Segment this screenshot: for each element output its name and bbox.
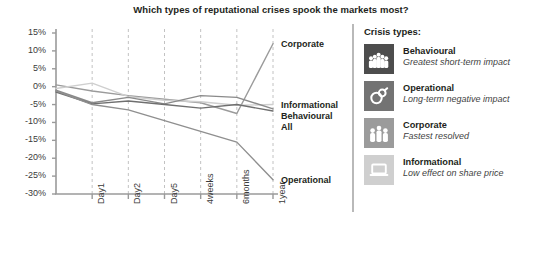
x-axis-tick-label: Day2 (132, 183, 142, 204)
series-label-all: All (281, 122, 293, 132)
x-axis-tick-label: 1year (277, 181, 287, 204)
legend-item-name: Informational (403, 157, 504, 168)
chart-panel: 15%10%5%0%-5%-10%-15%-20%-25%-30% Day1Da… (0, 22, 350, 262)
infographic-root: Which types of reputational crises spook… (0, 0, 542, 262)
legend-divider (352, 24, 354, 212)
x-axis-tick-label: Day1 (96, 183, 106, 204)
legend-item-corporate[interactable]: CorporateFastest resolved (364, 118, 542, 148)
chain-links-icon (364, 81, 394, 111)
legend-item-operational[interactable]: OperationalLong-term negative impact (364, 81, 542, 111)
laptop-icon (364, 155, 394, 185)
legend-item-list: BehaviouralGreatest short-term impactOpe… (364, 44, 542, 185)
y-axis-tick-label: 0% (6, 82, 46, 91)
y-axis-tick-label: 15% (6, 28, 46, 37)
x-axis-tick-label: 4weeks (205, 173, 215, 204)
legend-item-behavioural[interactable]: BehaviouralGreatest short-term impact (364, 44, 542, 74)
legend-item-name: Behavioural (403, 46, 510, 57)
legend-item-description: Greatest short-term impact (403, 57, 510, 68)
x-axis-tick-label: 6months (241, 169, 251, 204)
legend-item-text: CorporateFastest resolved (403, 118, 469, 142)
y-axis-tick-label: -25% (6, 171, 46, 180)
x-axis-tick-label: Day5 (169, 183, 179, 204)
legend-item-description: Fastest resolved (403, 131, 469, 142)
legend-item-name: Corporate (403, 120, 469, 131)
legend-item-description: Low effect on share price (403, 168, 504, 179)
y-axis-tick-label: 5% (6, 64, 46, 73)
legend-item-text: BehaviouralGreatest short-term impact (403, 44, 510, 68)
people-trio-icon (364, 118, 394, 148)
people-group-icon (364, 44, 394, 74)
y-axis-tick-label: 10% (6, 46, 46, 55)
y-axis-tick-label: -10% (6, 117, 46, 126)
legend-heading: Crisis types: (364, 26, 542, 37)
series-label-operational: Operational (281, 175, 331, 185)
series-label-informational: Informational (281, 100, 338, 110)
legend-item-text: OperationalLong-term negative impact (403, 81, 510, 105)
y-axis-tick-label: -30% (6, 189, 46, 198)
y-axis-tick-label: -20% (6, 153, 46, 162)
legend-item-informational[interactable]: InformationalLow effect on share price (364, 155, 542, 185)
chart-series-lines (56, 44, 273, 180)
legend-item-name: Operational (403, 83, 510, 94)
legend-panel: Crisis types: BehaviouralGreatest short-… (352, 24, 542, 214)
series-label-behavioural: Behavioural (281, 111, 333, 121)
legend-item-description: Long-term negative impact (403, 94, 510, 105)
legend-item-text: InformationalLow effect on share price (403, 155, 504, 179)
y-axis-tick-label: -15% (6, 135, 46, 144)
y-axis-tick-label: -5% (6, 100, 46, 109)
series-label-corporate: Corporate (281, 39, 324, 49)
page-title: Which types of reputational crises spook… (0, 4, 542, 15)
line-chart-svg (0, 22, 350, 262)
